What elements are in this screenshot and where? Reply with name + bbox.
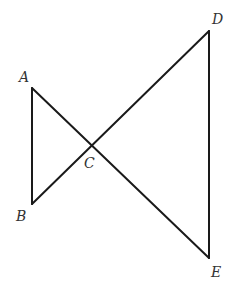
- segment-ae: [32, 88, 209, 258]
- label-a: A: [17, 69, 29, 85]
- label-b: B: [15, 208, 26, 224]
- label-d: D: [211, 11, 223, 27]
- label-c: C: [84, 155, 95, 171]
- label-e: E: [210, 264, 221, 280]
- segment-bd: [32, 31, 209, 204]
- geometry-diagram: A B C D E: [0, 0, 234, 291]
